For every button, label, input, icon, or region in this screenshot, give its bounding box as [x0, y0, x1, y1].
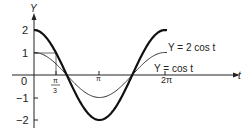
x-axis-label: t	[238, 70, 242, 81]
x-label-pi3-den: 3	[53, 87, 57, 94]
x-label-2pi: 2π	[161, 75, 172, 85]
legend-2cos-t: Y = 2 cos t	[168, 42, 216, 53]
y-label-1: 1	[22, 47, 28, 59]
y-label-2: 2	[22, 24, 28, 36]
y-label-m1: −1	[16, 92, 29, 104]
cosine-chart: Y t 0 2 1 −1 −2 π 3 π 2π Y = 2 cos t Y =…	[0, 0, 245, 137]
x-label-pi3-num: π	[53, 77, 58, 84]
legend-cos-t: Y = cos t	[154, 63, 193, 74]
origin-label: 0	[21, 75, 27, 87]
x-label-pi: π	[96, 75, 101, 82]
y-axis-arrow-icon	[32, 13, 37, 20]
y-axis-label: Y	[30, 3, 38, 14]
y-label-m2: −2	[16, 114, 29, 126]
